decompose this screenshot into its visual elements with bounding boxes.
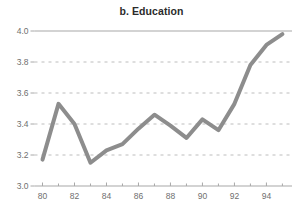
data-series-group — [43, 34, 283, 163]
y-axis-tick-label: 3.6 — [2, 88, 29, 98]
x-axis-tick-label: 90 — [198, 191, 207, 201]
y-axis-tick-label: 4.0 — [2, 26, 29, 36]
series-line-education — [43, 34, 283, 163]
line-chart-plot — [0, 0, 303, 216]
chart-figure: b. Education 3.03.23.43.63.84.0 80828486… — [0, 0, 303, 216]
y-axis-tick-label: 3.8 — [2, 57, 29, 67]
x-axis-tick-label: 88 — [166, 191, 175, 201]
x-axis-tick-label: 80 — [38, 191, 47, 201]
y-axis-tick-marks — [31, 31, 35, 186]
y-axis-tick-label: 3.4 — [2, 119, 29, 129]
x-axis-tick-label: 86 — [134, 191, 143, 201]
gridlines-group — [35, 62, 293, 155]
y-axis-tick-label: 3.0 — [2, 181, 29, 191]
x-axis-tick-label: 94 — [262, 191, 271, 201]
x-axis-tick-label: 84 — [102, 191, 111, 201]
y-axis-tick-label: 3.2 — [2, 150, 29, 160]
x-axis-tick-label: 82 — [70, 191, 79, 201]
x-axis-tick-label: 92 — [230, 191, 239, 201]
